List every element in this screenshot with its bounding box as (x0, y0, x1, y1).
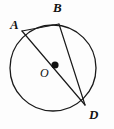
point-label-a: A (10, 18, 19, 31)
point-label-d: D (89, 108, 98, 121)
segment-chord-ab (22, 24, 59, 31)
point-label-o: O (40, 67, 49, 79)
point-label-b: B (53, 1, 62, 14)
geometry-figure: A B O D (0, 0, 114, 129)
center-dot-icon (51, 61, 58, 68)
